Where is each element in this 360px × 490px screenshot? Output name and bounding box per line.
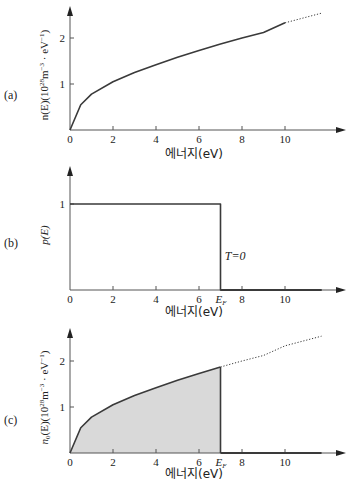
annotation-t0: T=0 xyxy=(225,249,246,263)
panel-label: (a) xyxy=(4,88,17,102)
x-tick-label: 4 xyxy=(153,133,159,145)
y-tick-label: 1 xyxy=(60,401,66,413)
panel-label: (b) xyxy=(4,236,18,250)
series-line xyxy=(285,13,322,23)
x-tick-label: 0 xyxy=(67,293,73,305)
x-tick-label: 2 xyxy=(110,293,116,305)
panel-label: (c) xyxy=(4,413,17,427)
chart-panel-a: 024681012에너지(eV)(a)n(E)(1028m−3 · eV−1) xyxy=(4,6,346,161)
x-axis-label: 에너지(eV) xyxy=(165,305,223,319)
x-tick-label: 6 xyxy=(196,133,202,145)
x-tick-label: 8 xyxy=(239,456,245,468)
chart-panel-b: 0246EF8101T=0에너지(eV)(b)p(E) xyxy=(4,166,346,319)
x-tick-label: 6 xyxy=(196,293,202,305)
x-tick-label: 4 xyxy=(153,456,159,468)
x-tick-label: 0 xyxy=(67,456,73,468)
y-tick-label: 2 xyxy=(60,32,66,44)
x-tick-label: 2 xyxy=(110,456,116,468)
series-line xyxy=(70,204,322,290)
y-tick-label: 1 xyxy=(60,198,66,210)
x-axis-arrow-icon xyxy=(336,450,346,456)
y-axis-label: n(E)(1028m−3 · eV−1) xyxy=(38,29,51,120)
y-axis-arrow-icon xyxy=(67,6,73,16)
x-tick-label: 10 xyxy=(280,456,292,468)
x-axis-label: 에너지(eV) xyxy=(165,467,223,481)
x-tick-label: 0 xyxy=(67,133,73,145)
x-tick-label: 10 xyxy=(280,133,292,145)
x-axis-arrow-icon xyxy=(336,127,346,133)
y-axis-arrow-icon xyxy=(67,328,73,338)
y-axis-label: n0(E)(1028m−3 · eV−1) xyxy=(38,350,52,444)
series-line xyxy=(221,336,322,367)
y-tick-label: 2 xyxy=(60,355,66,367)
figure: 024681012에너지(eV)(a)n(E)(1028m−3 · eV−1)0… xyxy=(0,0,360,490)
x-tick-label: 10 xyxy=(280,293,292,305)
series-line xyxy=(70,23,285,130)
x-tick-label: 4 xyxy=(153,293,159,305)
y-axis-label: p(E) xyxy=(38,225,51,246)
x-axis-arrow-icon xyxy=(336,287,346,293)
shaded-area xyxy=(70,367,221,453)
x-tick-label: 8 xyxy=(239,133,245,145)
chart-panel-c: 0246EF81012에너지(eV)(c)n0(E)(1028m−3 · eV−… xyxy=(4,328,346,481)
x-axis-label: 에너지(eV) xyxy=(165,147,223,161)
x-tick-label: 8 xyxy=(239,293,245,305)
y-tick-label: 1 xyxy=(60,78,66,90)
x-tick-label: 2 xyxy=(110,133,116,145)
y-axis-arrow-icon xyxy=(67,166,73,176)
